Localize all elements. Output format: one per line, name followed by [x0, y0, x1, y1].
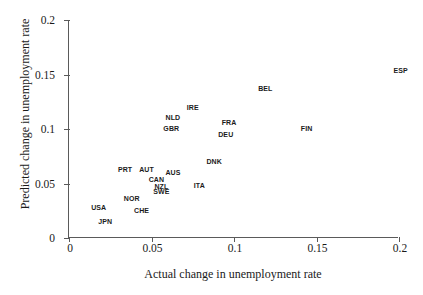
data-point-aut: AUT — [139, 166, 154, 173]
x-tick-label: 0.2 — [393, 243, 407, 255]
data-point-aus: AUS — [165, 168, 180, 175]
x-axis-title: Actual change in unemployment rate — [68, 268, 398, 280]
data-point-fra: FRA — [222, 119, 237, 126]
y-tick-label: 0.1 — [41, 124, 55, 136]
data-point-esp: ESP — [393, 67, 407, 74]
y-tick-label: 0.05 — [35, 179, 55, 191]
data-point-swe: SWE — [153, 188, 169, 195]
plot-area: 00.050.10.150.2 00.050.10.150.2 ESPBELIR… — [68, 20, 398, 238]
data-point-jpn: JPN — [98, 217, 112, 224]
data-point-gbr: GBR — [163, 124, 179, 131]
x-tick-label: 0.15 — [307, 243, 327, 255]
y-tick: 0.1 — [64, 129, 70, 130]
data-point-nor: NOR — [124, 194, 140, 201]
x-tick: 0.15 — [317, 237, 318, 242]
data-point-bel: BEL — [258, 84, 272, 91]
y-tick: 0.2 — [64, 20, 70, 21]
x-tick-label: 0.1 — [228, 243, 242, 255]
x-tick: 0.2 — [399, 237, 400, 242]
y-tick-label: 0 — [49, 233, 55, 245]
scatter-chart-figure: 00.050.10.150.2 00.050.10.150.2 ESPBELIR… — [0, 0, 423, 295]
data-point-ire: IRE — [187, 104, 199, 111]
x-tick: 0.05 — [152, 237, 153, 242]
x-tick: 0.1 — [234, 237, 235, 242]
data-point-fin: FIN — [301, 124, 313, 131]
data-point-nld: NLD — [166, 114, 181, 121]
y-axis-title: Predicted change in unemployment rate — [19, 0, 31, 230]
y-tick-label: 0.15 — [35, 70, 55, 82]
data-point-che: CHE — [134, 206, 149, 213]
data-point-dnk: DNK — [206, 157, 221, 164]
x-tick-label: 0.05 — [142, 243, 162, 255]
data-point-prt: PRT — [118, 166, 132, 173]
x-tick: 0 — [69, 237, 70, 242]
data-point-deu: DEU — [218, 131, 233, 138]
y-tick: 0.05 — [64, 184, 70, 185]
y-tick-label: 0.2 — [41, 15, 55, 27]
y-tick: 0.15 — [64, 75, 70, 76]
data-point-usa: USA — [91, 204, 106, 211]
x-tick-label: 0 — [67, 243, 73, 255]
data-point-ita: ITA — [194, 181, 205, 188]
